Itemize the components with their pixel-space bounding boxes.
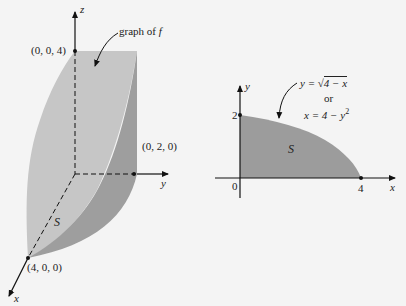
region-s-label-2d: S [288,143,294,155]
figure-canvas: z graph of f (0, 0, 4) (0, 2, 0) y S (4,… [0,0,406,306]
graph-annotation: graph of f [119,26,162,37]
graph-annotation-text: graph of [119,25,159,37]
point-x [26,256,30,260]
point-x4 [359,176,363,180]
equation-1-radical: 4 − x [324,76,347,89]
y-tick-2: 2 [232,110,238,121]
curve-arrow [279,83,297,118]
x-axis [9,258,28,296]
sqrt-sign: √ [318,77,324,89]
z-intercept-label: (0, 0, 4) [31,45,66,56]
solid-3d [27,51,137,258]
point-y [132,172,136,176]
x-axis-2d-label: x [390,182,395,193]
equation-1: y = √4 − x [300,78,347,89]
equation-or: or [324,93,333,104]
x-intercept-label: (4, 0, 0) [27,262,62,273]
point-y2 [238,113,242,117]
x-tick-4: 4 [358,183,364,194]
z-axis-label: z [80,4,84,15]
equation-2-lhs: x = 4 − y [304,109,345,121]
y-intercept-label: (0, 2, 0) [142,141,177,152]
region-s [240,115,361,178]
point-z [73,49,77,53]
x-axis-label: x [14,293,19,304]
equation-2: x = 4 − y2 [304,108,349,121]
graph-annotation-fn: f [159,25,162,37]
equation-1-lhs: y = [300,77,318,89]
region-s-label-3d: S [54,216,60,228]
y-axis-label: y [161,178,166,189]
equation-2-exp: 2 [345,107,349,116]
y-axis-2d-label: y [245,81,250,92]
origin-label: 0 [232,181,238,192]
